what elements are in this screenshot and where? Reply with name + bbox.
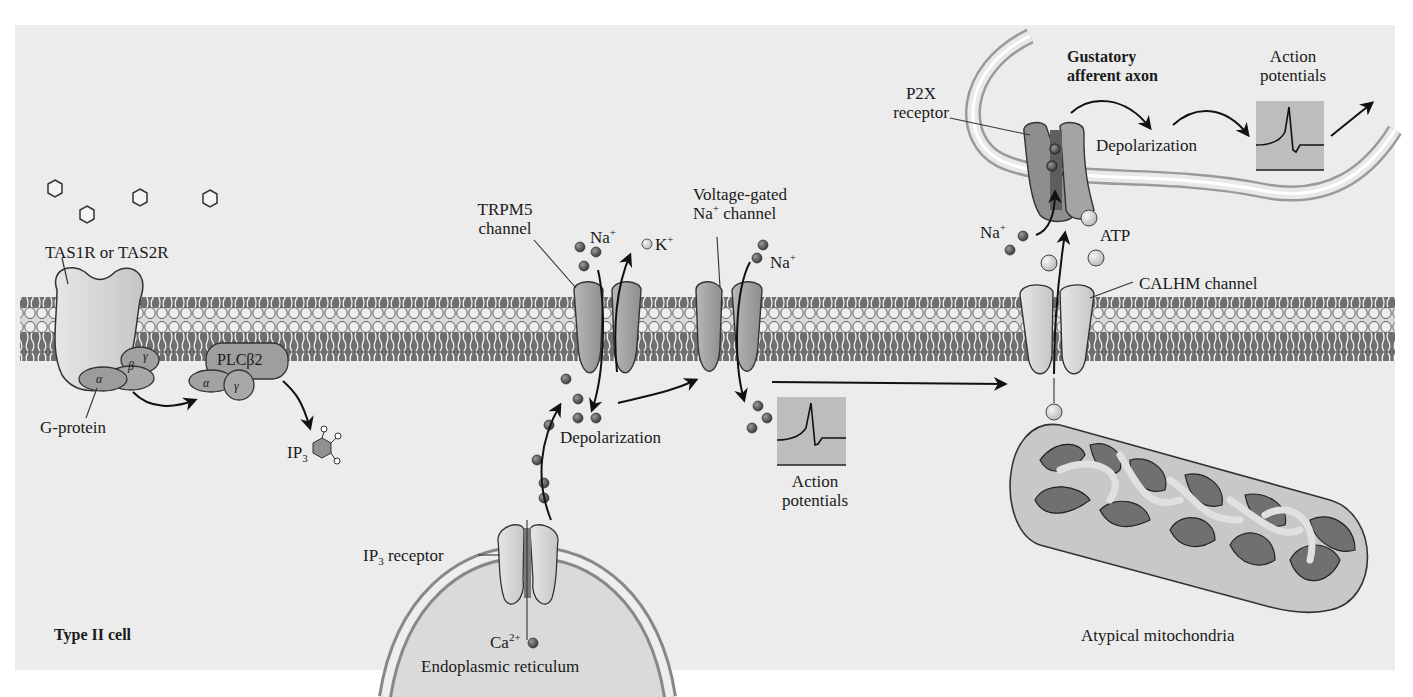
ip3-receptor-label: IP3 receptor bbox=[363, 546, 444, 565]
axon-ap-line1: Action bbox=[1243, 47, 1343, 66]
vgna-na: Na bbox=[693, 204, 713, 223]
ip3r-after: receptor bbox=[384, 546, 444, 565]
vgna-label-line2: Na+ channel bbox=[693, 204, 787, 223]
na-base: Na bbox=[770, 253, 790, 272]
vgna-label: Voltage-gatedNa+ channel bbox=[693, 185, 787, 223]
atp-label: ATP bbox=[1100, 226, 1130, 245]
ip3-label-base: IP bbox=[287, 443, 302, 462]
axon-depolarization-label: Depolarization bbox=[1096, 136, 1197, 155]
action-potential-trace-icon bbox=[777, 397, 846, 465]
action-potentials-label: Actionpotentials bbox=[770, 472, 860, 510]
na-charge: + bbox=[790, 251, 796, 263]
ip3-label-sub: 3 bbox=[302, 452, 308, 464]
ap-label-line1: Action bbox=[770, 472, 860, 491]
axon-action-potentials-label: Actionpotentials bbox=[1243, 47, 1343, 85]
ca-charge: 2+ bbox=[509, 631, 521, 643]
vgna-na-label: Na+ bbox=[770, 253, 796, 272]
ip3r-base: IP bbox=[363, 546, 378, 565]
p2x-label-line2: receptor bbox=[885, 103, 957, 122]
plc-beta2-label: PLCβ2 bbox=[217, 350, 262, 369]
trpm5-label-line2: channel bbox=[470, 219, 540, 238]
ap-label-line2: potentials bbox=[770, 491, 860, 510]
gamma-subunit-label: γ bbox=[143, 347, 148, 366]
axon-label-line1: Gustatory bbox=[1067, 47, 1158, 66]
plc-gamma-label: γ bbox=[234, 377, 239, 396]
calhm-label: CALHM channel bbox=[1139, 274, 1258, 293]
k-label: K+ bbox=[655, 235, 674, 254]
vgna-channel-word: channel bbox=[719, 204, 776, 223]
plc-alpha-label: α bbox=[203, 374, 209, 393]
er-label: Endoplasmic reticulum bbox=[421, 657, 579, 676]
na-base: Na bbox=[980, 223, 1000, 242]
k-base: K bbox=[655, 235, 667, 254]
trpm5-label: TRPM5channel bbox=[470, 200, 540, 238]
axon-ap-line2: potentials bbox=[1243, 66, 1343, 85]
cell-type-label: Type II cell bbox=[54, 625, 131, 644]
taste-transduction-diagram: TAS1R or TAS2R G-protein α β γ PLCβ2 α γ… bbox=[0, 0, 1413, 697]
potassium-ion-icon bbox=[642, 239, 652, 249]
beta-subunit-label: β bbox=[128, 357, 134, 376]
calcium-label: Ca2+ bbox=[490, 633, 521, 652]
p2x-label: P2Xreceptor bbox=[885, 84, 957, 122]
g-protein-label: G-protein bbox=[40, 418, 106, 437]
receptor-label: TAS1R or TAS2R bbox=[45, 243, 169, 262]
p2x-label-line1: P2X bbox=[885, 84, 957, 103]
p2x-na-label: Na+ bbox=[980, 223, 1006, 242]
axon-label-line2: afferent axon bbox=[1067, 66, 1158, 85]
axon-action-potential-trace-icon bbox=[1256, 101, 1324, 170]
ca-base: Ca bbox=[490, 633, 509, 652]
na-charge: + bbox=[610, 226, 616, 238]
trpm5-label-line1: TRPM5 bbox=[470, 200, 540, 219]
diagram-canvas bbox=[0, 0, 1413, 697]
na-charge: + bbox=[1000, 221, 1006, 233]
vgna-label-line1: Voltage-gated bbox=[693, 185, 787, 204]
mitochondria-label: Atypical mitochondria bbox=[1081, 626, 1234, 645]
depolarization-label: Depolarization bbox=[560, 428, 661, 447]
axon-label: Gustatoryafferent axon bbox=[1067, 47, 1158, 85]
alpha-subunit-label: α bbox=[96, 370, 102, 389]
trpm5-na-label: Na+ bbox=[590, 228, 616, 247]
na-base: Na bbox=[590, 228, 610, 247]
ip3-label: IP3 bbox=[287, 443, 308, 462]
k-charge: + bbox=[667, 233, 673, 245]
